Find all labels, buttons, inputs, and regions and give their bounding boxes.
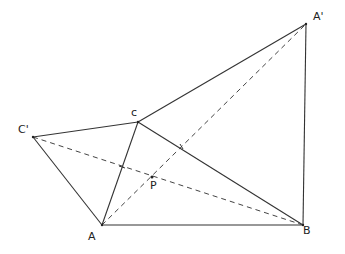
point-C bbox=[137, 121, 139, 123]
segment-A-prime-B bbox=[303, 24, 306, 225]
segment-CA bbox=[102, 122, 138, 225]
dashed-segment-AA-prime bbox=[102, 24, 306, 225]
segment-BC bbox=[138, 122, 303, 225]
label-C-prime: C' bbox=[18, 124, 29, 135]
segment-CC-prime bbox=[33, 122, 138, 137]
segment-CA-prime bbox=[138, 24, 306, 122]
label-B: B bbox=[303, 225, 311, 236]
dashed-segment-C-prime-B bbox=[33, 137, 303, 225]
segment-C-prime-A bbox=[33, 137, 102, 225]
point-C-prime bbox=[32, 136, 34, 138]
label-A: A bbox=[88, 231, 96, 242]
label-A-prime: A' bbox=[313, 11, 324, 22]
geometry-diagram bbox=[0, 0, 345, 254]
label-P: P bbox=[150, 180, 157, 191]
point-A bbox=[101, 224, 103, 226]
label-C: c bbox=[131, 107, 137, 118]
point-A-prime bbox=[305, 23, 307, 25]
